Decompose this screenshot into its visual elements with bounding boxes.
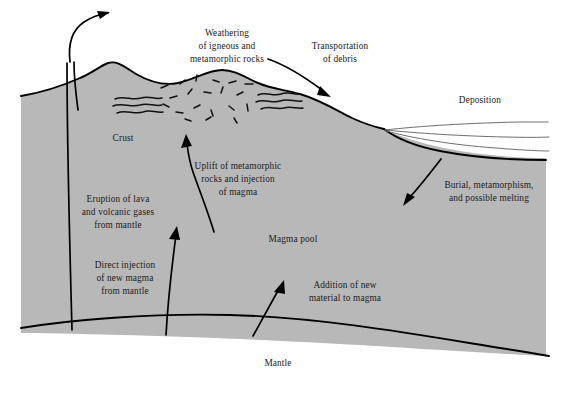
eruption-label-line3: from mantle — [94, 220, 141, 230]
eruption-arrow — [70, 11, 110, 62]
direct-injection-label-line3: from mantle — [101, 286, 148, 296]
dash-texture-3 — [196, 75, 197, 81]
eruption-label-line1: Eruption of lava — [87, 194, 150, 204]
weathering-label-line3: metamorphic rocks — [190, 54, 264, 64]
burial-label-line2: and possible melting — [449, 193, 529, 203]
magma-pool-label: Magma pool — [269, 234, 318, 244]
crust-label: Crust — [113, 133, 134, 143]
weathering-label-line1: Weathering — [205, 28, 249, 38]
uplift-label-line3: of magma — [219, 187, 258, 197]
uplift-label-line1: Uplift of metamorphic — [195, 161, 282, 171]
mantle-label: Mantle — [264, 358, 291, 368]
deposition-label: Deposition — [459, 95, 502, 105]
dash-texture-12 — [176, 112, 183, 113]
diagram-canvas: Weathering of igneous and metamorphic ro… — [0, 0, 566, 405]
transportation-label-line1: Transportation — [312, 41, 369, 51]
dash-texture-16 — [247, 104, 248, 111]
addition-label-line2: material to magma — [309, 293, 381, 303]
eruption-label-line2: and volcanic gases — [82, 207, 155, 217]
eruption-arrow-head — [97, 11, 110, 19]
rock-cycle-diagram: Weathering of igneous and metamorphic ro… — [0, 0, 566, 405]
eruption-arrow-shaft — [70, 13, 108, 62]
weathering-label-line2: of igneous and — [199, 41, 256, 51]
direct-injection-label-line2: of new magma — [96, 273, 153, 283]
direct-injection-label-line1: Direct injection — [95, 260, 156, 270]
transportation-label-line2: of debris — [323, 54, 357, 64]
transportation-arrow-shaft — [268, 59, 322, 90]
addition-label-line1: Addition of new — [313, 280, 376, 290]
deposition-layer-1 — [385, 122, 548, 130]
burial-label-line1: Burial, metamorphism, — [444, 180, 533, 190]
dash-texture-9 — [204, 92, 211, 93]
uplift-label-line2: rocks and injection — [201, 174, 275, 184]
